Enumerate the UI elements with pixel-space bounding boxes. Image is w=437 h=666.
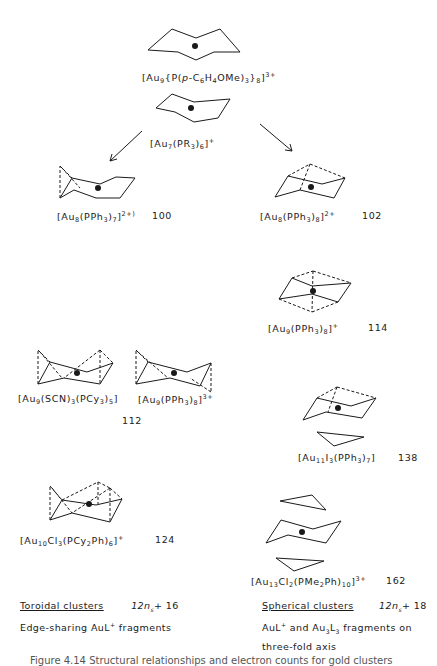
- spherical-title: Spherical clusters: [262, 600, 354, 611]
- spherical-electron-rule: 12ns+ 18: [379, 598, 427, 617]
- page-ref-au10: 124: [155, 534, 175, 545]
- page-ref-au9-8-plus: 114: [368, 322, 388, 333]
- au7-chair: [156, 94, 230, 122]
- au8-8-structure: [275, 164, 345, 198]
- label-au9-8-plus: [Au9(PPh3)8]+: [268, 322, 339, 336]
- page-ref-au11: 138: [398, 452, 418, 463]
- au8-7-structure: [60, 166, 135, 198]
- label-au9-scn: [Au9(SCN)3(PCy3)5]: [18, 393, 118, 406]
- label-au9-pome: [Au9{P(p-C6H4OMe)3}8]3+: [142, 71, 276, 85]
- page-ref-au9-8-3plus: 112: [122, 415, 142, 426]
- toroidal-electron-rule: 12ns+ 16: [131, 598, 179, 617]
- label-au10: [Au10Cl3(PCy2Ph)6]+: [20, 534, 124, 548]
- spherical-description-line2: three-fold axis: [262, 639, 427, 654]
- page-ref-au13: 162: [386, 575, 406, 586]
- au10-structure: [50, 482, 122, 522]
- page-ref-au8-7: 100: [152, 210, 172, 221]
- au13-structure: [266, 495, 341, 571]
- label-au9-8-3plus: [Au9(PPh3)8]3+: [138, 393, 213, 407]
- page-ref-au8-8: 102: [362, 210, 382, 221]
- au9-scn-structure: [38, 350, 113, 384]
- label-au11: [Au11I3(PPh3)7]: [298, 452, 375, 465]
- au11-structure: [303, 387, 376, 446]
- label-au8-8: [Au8(PPh3)8]2+: [260, 210, 335, 224]
- au9-8-3plus-structure: [136, 350, 211, 392]
- spherical-description-line1: AuL+ and Au3L3 fragments on: [262, 617, 427, 639]
- arrow-left: [110, 131, 142, 161]
- toroidal-description: Edge-sharing AuL+ fragments: [20, 617, 179, 635]
- label-au8-7: [Au8(PPh3)7]2+): [57, 210, 135, 224]
- label-au7: [Au7(PR3)6]+: [150, 137, 215, 151]
- au9-pome-chair: [148, 29, 240, 60]
- label-au13: [Au13Cl2(PMe2Ph)10]3+: [251, 575, 366, 589]
- toroidal-title: Toroidal clusters: [20, 600, 104, 611]
- au9-8-plus-structure: [279, 271, 351, 312]
- arrow-right: [260, 124, 292, 151]
- legend-toroidal: Toroidal clusters 12ns+ 16 Edge-sharing …: [20, 598, 179, 635]
- legend-spherical: Spherical clusters 12ns+ 18 AuL+ and Au3…: [262, 598, 427, 654]
- figure-caption: Figure 4.14 Structural relationships and…: [30, 655, 393, 666]
